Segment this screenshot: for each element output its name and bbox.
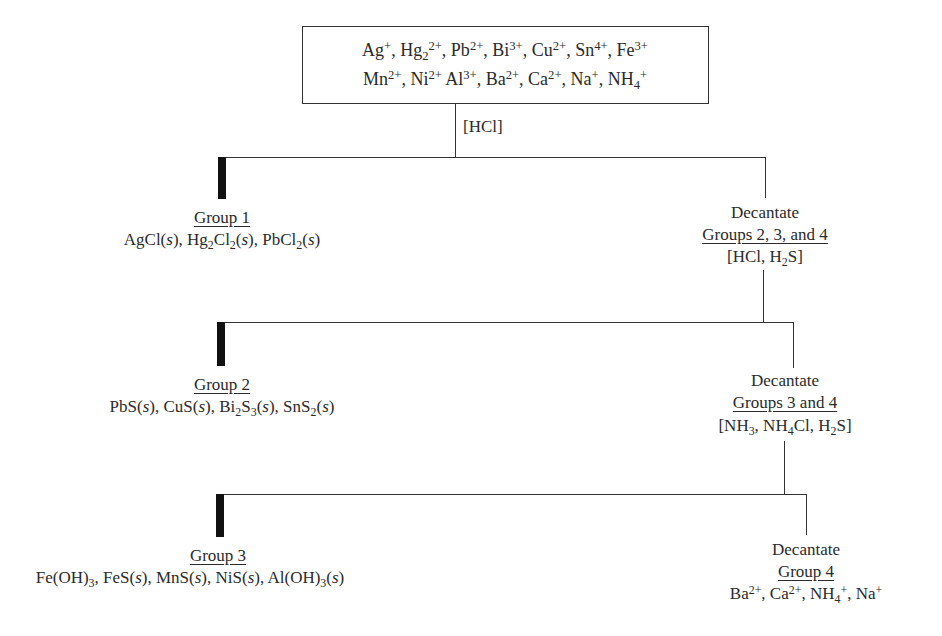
initial-cations-line-1: Ag+, Hg22+, Pb2+, Bi3+, Cu2+, Sn4+, Fe3+ xyxy=(362,40,648,60)
group-4-contents: Ba2+, Ca2+, NH4+, Na+ xyxy=(730,584,882,604)
initial-cations-line-2: Mn2+, Ni2+ Al3+, Ba2+, Ca2+, Na+, NH4+ xyxy=(363,69,647,89)
group-2-contents: PbS(s), CuS(s), Bi2S3(s), SnS2(s) xyxy=(110,397,335,417)
decantate-line-2 xyxy=(793,322,794,368)
group-1-contents: AgCl(s), Hg2Cl2(s), PbCl2(s) xyxy=(124,230,320,250)
group-4-label: Group 4 xyxy=(778,562,834,582)
reagent-hcl-h2s: [HCl, H2S] xyxy=(727,247,803,267)
reagent-hcl: [HCl] xyxy=(463,117,503,137)
decantate-3-action: Decantate xyxy=(772,540,840,560)
stem-line-3 xyxy=(784,441,785,494)
decantate-2-label: Groups 3 and 4 xyxy=(733,393,837,413)
decantate-1-label: Groups 2, 3, and 4 xyxy=(702,225,828,245)
group-3-label: Group 3 xyxy=(190,546,246,566)
precipitate-marker-2 xyxy=(217,322,225,366)
branch-line-3 xyxy=(216,494,807,495)
group-1-label: Group 1 xyxy=(194,208,250,228)
decantate-line-1 xyxy=(765,157,766,198)
branch-line-2 xyxy=(217,322,794,323)
decantate-2-action: Decantate xyxy=(751,371,819,391)
stem-line-2 xyxy=(763,270,764,323)
initial-cations-box xyxy=(302,26,709,104)
branch-line-1 xyxy=(218,157,766,158)
group-2-label: Group 2 xyxy=(194,375,250,395)
reagent-nh3-nh4cl-h2s: [NH3, NH4Cl, H2S] xyxy=(718,416,851,436)
precipitate-marker-3 xyxy=(216,494,224,537)
stem-line-1 xyxy=(455,104,456,157)
group-3-contents: Fe(OH)3, FeS(s), MnS(s), NiS(s), Al(OH)3… xyxy=(36,568,345,588)
decantate-1-action: Decantate xyxy=(731,203,799,223)
decantate-line-3 xyxy=(806,494,807,535)
precipitate-marker-1 xyxy=(218,157,226,199)
